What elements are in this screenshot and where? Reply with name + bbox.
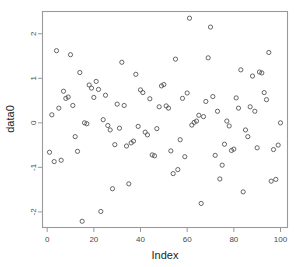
- x-tick-label: 40: [136, 235, 145, 244]
- data-point: [120, 60, 124, 64]
- data-point: [94, 79, 98, 83]
- data-point: [115, 102, 119, 106]
- data-point: [218, 177, 222, 181]
- x-axis-title: Index: [152, 249, 179, 261]
- y-axis-ticks: 210-1-2: [29, 31, 43, 215]
- data-point: [73, 135, 77, 139]
- data-point: [185, 91, 189, 95]
- data-point: [222, 142, 226, 146]
- plot-frame: [43, 12, 288, 228]
- data-point: [180, 96, 184, 100]
- data-point: [124, 144, 128, 148]
- data-point: [157, 105, 161, 109]
- data-point: [106, 123, 110, 127]
- data-point: [220, 163, 224, 167]
- data-point: [148, 97, 152, 101]
- data-point: [178, 138, 182, 142]
- data-point: [199, 201, 203, 205]
- data-point: [269, 179, 273, 183]
- data-point: [173, 57, 177, 61]
- data-point: [234, 96, 238, 100]
- data-point: [110, 187, 114, 191]
- x-axis-ticks: 020406080100: [45, 228, 288, 244]
- data-point: [278, 121, 282, 125]
- data-point: [57, 106, 61, 110]
- data-point: [127, 182, 131, 186]
- data-point: [61, 89, 65, 93]
- y-axis-title: data0: [4, 105, 16, 133]
- data-point: [236, 106, 240, 110]
- data-point: [206, 56, 210, 60]
- data-point: [89, 86, 93, 90]
- r-plot-figure: 020406080100 210-1-2 Index data0: [0, 0, 300, 267]
- data-point: [183, 155, 187, 159]
- data-point: [253, 109, 257, 113]
- y-tick-label: 0: [29, 120, 38, 125]
- data-point: [52, 159, 56, 163]
- data-point: [246, 135, 250, 139]
- x-tick-label: 20: [89, 235, 98, 244]
- data-point: [96, 87, 100, 91]
- data-point: [211, 94, 215, 98]
- data-point: [80, 219, 84, 223]
- data-point: [267, 50, 271, 54]
- data-point: [227, 124, 231, 128]
- data-point: [248, 105, 252, 109]
- data-point: [99, 209, 103, 213]
- data-point: [122, 103, 126, 107]
- data-point: [138, 88, 142, 92]
- data-point: [171, 172, 175, 176]
- data-point: [101, 118, 105, 122]
- data-point: [215, 109, 219, 113]
- data-point: [187, 16, 191, 20]
- data-point: [255, 146, 259, 150]
- data-point-group: [47, 16, 282, 223]
- scatter-plot-canvas: 020406080100 210-1-2 Index data0: [0, 0, 300, 267]
- data-point: [136, 124, 140, 128]
- data-point: [190, 123, 194, 127]
- data-point: [103, 93, 107, 97]
- data-point: [208, 25, 212, 29]
- data-point: [204, 99, 208, 103]
- x-tick-label: 60: [183, 235, 192, 244]
- data-point: [117, 126, 121, 130]
- y-tick-label: 2: [29, 31, 38, 36]
- data-point: [143, 130, 147, 134]
- data-point: [176, 168, 180, 172]
- data-point: [271, 147, 275, 151]
- data-point: [213, 153, 217, 157]
- data-point: [243, 128, 247, 132]
- data-point: [108, 128, 112, 132]
- data-point: [155, 127, 159, 131]
- data-point: [141, 90, 145, 94]
- y-tick-label: -2: [29, 208, 38, 216]
- x-tick-label: 80: [229, 235, 238, 244]
- data-point: [54, 49, 58, 53]
- data-point: [50, 113, 54, 117]
- data-point: [264, 98, 268, 102]
- data-point: [262, 90, 266, 94]
- data-point: [78, 70, 82, 74]
- x-tick-label: 0: [45, 235, 50, 244]
- data-point: [276, 143, 280, 147]
- data-point: [92, 95, 96, 99]
- data-point: [113, 143, 117, 147]
- x-tick-label: 100: [274, 235, 288, 244]
- data-point: [225, 119, 229, 123]
- data-point: [239, 68, 243, 72]
- y-tick-label: -1: [29, 163, 38, 171]
- data-point: [241, 190, 245, 194]
- data-point: [134, 72, 138, 76]
- y-tick-label: 1: [29, 76, 38, 81]
- data-point: [47, 150, 51, 154]
- data-point: [71, 103, 75, 107]
- data-point: [201, 115, 205, 119]
- data-point: [68, 53, 72, 57]
- data-point: [145, 133, 149, 137]
- data-point: [75, 149, 79, 153]
- data-point: [59, 158, 63, 162]
- data-point: [197, 113, 201, 117]
- data-point: [169, 149, 173, 153]
- data-point: [274, 177, 278, 181]
- data-point: [250, 74, 254, 78]
